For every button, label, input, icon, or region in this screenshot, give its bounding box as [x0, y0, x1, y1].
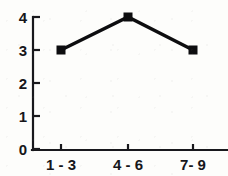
series-marker-group [57, 13, 198, 55]
y-tick-label-4: 4 [19, 9, 28, 26]
x-tick-label-1: 4 - 6 [113, 156, 143, 173]
y-tick-label-1: 1 [19, 108, 27, 125]
line-chart: 4 3 2 1 0 1 - 3 4 - 6 7- 9 [0, 0, 228, 176]
y-tick-label-3: 3 [19, 42, 27, 59]
series-line [61, 17, 193, 50]
data-point-marker [124, 13, 133, 22]
chart-plot-area: 4 3 2 1 0 1 - 3 4 - 6 7- 9 [0, 0, 228, 176]
x-tick-label-2: 7- 9 [180, 156, 206, 173]
y-tick-label-2: 2 [19, 75, 27, 92]
y-tick-label-0: 0 [19, 141, 27, 158]
data-point-marker [189, 46, 198, 55]
data-point-marker [57, 46, 66, 55]
x-tick-label-0: 1 - 3 [46, 156, 76, 173]
